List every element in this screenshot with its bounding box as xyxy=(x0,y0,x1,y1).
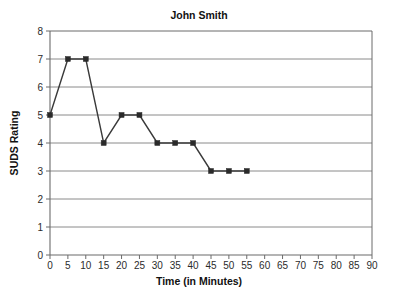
data-point-35-4 xyxy=(173,141,178,146)
x-tick-label-15: 15 xyxy=(98,260,110,271)
x-tick-label-30: 30 xyxy=(152,260,164,271)
x-tick-label-70: 70 xyxy=(295,260,307,271)
x-tick-label-5: 5 xyxy=(65,260,71,271)
y-tick-label-7: 7 xyxy=(37,54,43,65)
x-tick-label-85: 85 xyxy=(349,260,361,271)
y-tick-label-2: 2 xyxy=(37,194,43,205)
y-tick-label-4: 4 xyxy=(37,138,43,149)
chart-screenshot: John Smith 012345678 0510152025303540455… xyxy=(0,0,399,295)
suds-rating-line-chart: John Smith 012345678 0510152025303540455… xyxy=(0,0,399,295)
x-axis-title: Time (in Minutes) xyxy=(156,275,242,287)
y-tick-label-1: 1 xyxy=(37,222,43,233)
y-tick-label-5: 5 xyxy=(37,110,43,121)
x-tick-label-10: 10 xyxy=(80,260,92,271)
x-tick-label-80: 80 xyxy=(331,260,343,271)
y-tick-label-3: 3 xyxy=(37,166,43,177)
chart-background xyxy=(0,0,399,295)
y-tick-label-0: 0 xyxy=(37,250,43,261)
x-tick-label-0: 0 xyxy=(47,260,53,271)
y-axis-tick-labels: 012345678 xyxy=(37,26,43,261)
y-tick-label-6: 6 xyxy=(37,82,43,93)
chart-title: John Smith xyxy=(170,9,227,21)
data-point-15-4 xyxy=(101,141,106,146)
y-tick-label-8: 8 xyxy=(37,26,43,37)
x-tick-label-55: 55 xyxy=(241,260,253,271)
data-point-25-5 xyxy=(137,113,142,118)
data-point-50-3 xyxy=(226,169,231,174)
x-tick-label-50: 50 xyxy=(223,260,235,271)
x-tick-label-20: 20 xyxy=(116,260,128,271)
data-point-5-7 xyxy=(65,57,70,62)
x-tick-label-75: 75 xyxy=(313,260,325,271)
x-tick-label-65: 65 xyxy=(277,260,289,271)
data-point-45-3 xyxy=(209,169,214,174)
data-point-20-5 xyxy=(119,113,124,118)
y-axis-title: SUDS Rating xyxy=(8,111,20,176)
x-tick-label-90: 90 xyxy=(366,260,378,271)
x-tick-label-25: 25 xyxy=(134,260,146,271)
data-point-55-3 xyxy=(244,169,249,174)
x-tick-label-40: 40 xyxy=(188,260,200,271)
x-tick-label-35: 35 xyxy=(170,260,182,271)
data-point-30-4 xyxy=(155,141,160,146)
x-tick-label-60: 60 xyxy=(259,260,271,271)
data-point-0-5 xyxy=(48,113,53,118)
x-tick-label-45: 45 xyxy=(205,260,217,271)
data-point-40-4 xyxy=(191,141,196,146)
data-point-10-7 xyxy=(83,57,88,62)
